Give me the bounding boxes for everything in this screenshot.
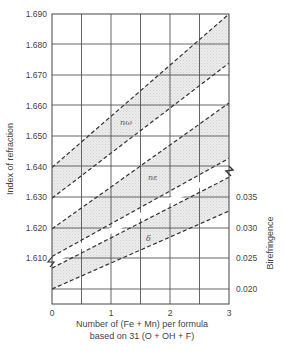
y-tick-label: 1.660 [26, 101, 48, 111]
x-tick-label: 3 [227, 308, 232, 318]
y-tick-label: 1.610 [26, 253, 48, 263]
x-axis-label-line2: based on 31 (O + OH + F) [90, 331, 195, 341]
y-tick-label: 1.650 [26, 131, 48, 141]
y-axis-label-right: Birefringence [265, 216, 275, 269]
y-axis-ticks-left: 1.6901.6801.6701.6601.6501.6401.6301.620… [26, 9, 48, 263]
y-tick-label: 1.690 [26, 9, 48, 19]
chart: 1.6901.6801.6701.6601.6501.6401.6301.620… [0, 0, 285, 351]
y-tick-label: 1.680 [26, 40, 48, 50]
y-axis-ticks-right: 0.0350.0300.0250.020 [236, 192, 258, 294]
y-tick-label: 1.620 [26, 223, 48, 233]
y-tick-label-right: 0.035 [236, 192, 258, 202]
y-tick-label-right: 0.025 [236, 253, 258, 263]
x-tick-label: 1 [109, 308, 114, 318]
x-axis-ticks: 0123 [50, 308, 232, 318]
label-n-omega: nω [120, 118, 132, 127]
label-n-epsilon: nε [148, 173, 157, 182]
x-tick-label: 0 [50, 308, 55, 318]
y-tick-label-right: 0.020 [236, 284, 258, 294]
x-axis-label-line1: Number of (Fe + Mn) per formula [76, 319, 208, 329]
y-tick-label: 1.670 [26, 70, 48, 80]
label-delta: δ [146, 234, 151, 243]
y-tick-label: 1.640 [26, 162, 48, 172]
x-tick-label: 2 [168, 308, 173, 318]
y-tick-label-right: 0.030 [236, 223, 258, 233]
y-tick-label: 1.630 [26, 192, 48, 202]
y-axis-label-left: Index of refraction [5, 123, 15, 195]
